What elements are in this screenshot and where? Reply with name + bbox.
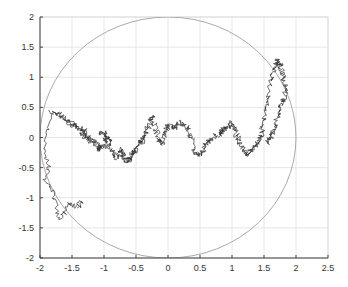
x-tick-label: 1	[229, 263, 234, 273]
x-tick-label: 0	[165, 263, 170, 273]
y-tick-label: -0.5	[18, 163, 34, 173]
x-tick-label: 1.5	[258, 263, 271, 273]
y-tick-label: 0.5	[21, 102, 34, 112]
chart: -2-1.5-1-0.500.511.522.5 -2-1.5-1-0.500.…	[0, 0, 348, 287]
x-tick-label: -1	[100, 263, 108, 273]
y-tick-label: -1.5	[18, 223, 34, 233]
x-tick-label: 0.5	[194, 263, 207, 273]
y-tick-label: 1	[29, 72, 34, 82]
y-tick-label: 1.5	[21, 42, 34, 52]
y-tick-label: -2	[26, 253, 34, 263]
x-tick-label: -1.5	[64, 263, 80, 273]
x-tick-label: -0.5	[128, 263, 144, 273]
x-tick-label: 2	[293, 263, 298, 273]
grid-lines	[40, 17, 328, 258]
x-tick-label: 2.5	[322, 263, 335, 273]
y-tick-label: -1	[26, 193, 34, 203]
random-walk-branch	[43, 114, 83, 220]
x-tick-label: -2	[36, 263, 44, 273]
y-tick-label: 2	[29, 12, 34, 22]
y-tick-labels: -2-1.5-1-0.500.511.52	[18, 12, 43, 263]
y-tick-label: 0	[29, 133, 34, 143]
